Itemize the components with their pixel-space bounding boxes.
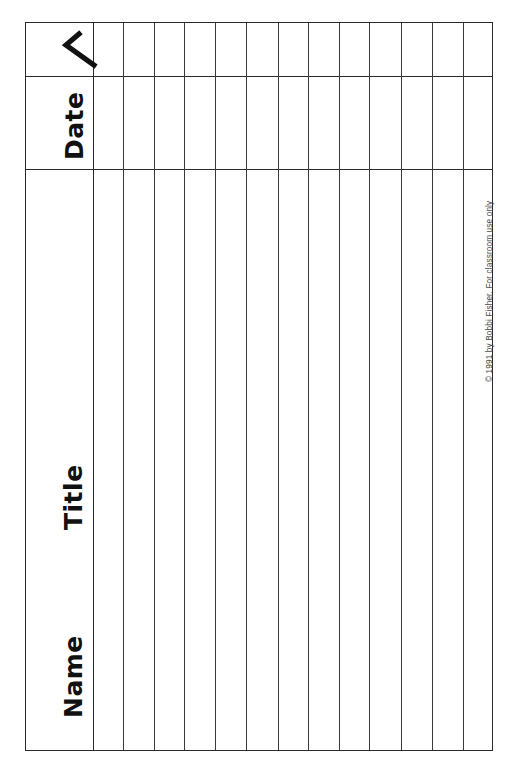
column-label-name: Name <box>59 635 88 718</box>
column-label-title: Title <box>59 464 88 530</box>
grid-vrule-6 <box>246 23 247 750</box>
grid-vrule-11 <box>401 23 402 750</box>
grid-vrule-2 <box>123 23 124 750</box>
grid-vrule-4 <box>184 23 185 750</box>
record-grid <box>25 22 493 751</box>
grid-vrule-8 <box>308 23 309 750</box>
grid-vrule-3 <box>154 23 155 750</box>
grid-vrule-5 <box>215 23 216 750</box>
grid-vrule-1 <box>93 23 94 750</box>
worksheet-page: Date Title Name © 1991 by Bobbi Fisher. … <box>0 0 518 771</box>
grid-hrule-check-date <box>26 76 492 77</box>
grid-vrule-10 <box>369 23 370 750</box>
checkmark-icon <box>58 29 100 69</box>
column-label-date: Date <box>60 91 89 160</box>
grid-vrule-12 <box>432 23 433 750</box>
grid-vrule-9 <box>339 23 340 750</box>
grid-vrule-13 <box>463 23 464 750</box>
check-column-header-cell <box>25 22 92 75</box>
grid-hrule-date-body <box>26 169 492 170</box>
copyright-notice: © 1991 by Bobbi Fisher. For classroom us… <box>485 201 494 382</box>
grid-vrule-7 <box>278 23 279 750</box>
